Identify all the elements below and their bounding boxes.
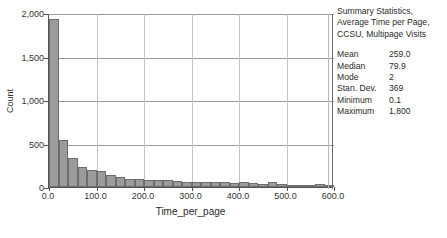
- statistic-value: 259.0: [389, 49, 447, 60]
- histogram-bar: [68, 158, 78, 187]
- histogram-bar: [78, 167, 88, 187]
- y-axis-tick-label: 1,500: [21, 53, 44, 63]
- histogram-bar: [211, 182, 221, 187]
- x-axis-title: Time_per_page: [48, 206, 333, 217]
- summary-statistics-row: Mode2: [337, 72, 447, 83]
- statistic-label: Median: [337, 61, 389, 72]
- histogram-bar: [59, 140, 69, 187]
- histogram-bar: [173, 181, 183, 187]
- x-axis-tick-label: 100.0: [84, 191, 107, 201]
- histogram-bar: [268, 182, 278, 187]
- histogram-bar: [201, 182, 211, 187]
- histogram-bar: [249, 183, 259, 187]
- histogram-bar: [296, 185, 306, 187]
- x-axis-tick-label: 0.0: [42, 191, 55, 201]
- summary-statistics-body: Mean259.0Median79.9Mode2Stan. Dev.369Min…: [337, 49, 447, 117]
- statistic-label: Stan. Dev.: [337, 83, 389, 94]
- histogram-bar: [87, 170, 97, 187]
- histogram-bar: [287, 185, 297, 187]
- summary-statistics-title-line: Average Time per Page,: [337, 17, 447, 28]
- statistic-value: 1,800: [389, 106, 447, 117]
- histogram-bar: [125, 179, 135, 187]
- x-axis-tick-labels: 0.0100.0200.0300.0400.0500.0600.0: [48, 191, 338, 205]
- histogram-bar: [154, 180, 164, 187]
- statistic-label: Mode: [337, 72, 389, 83]
- histogram-bar: [144, 180, 154, 187]
- summary-statistics-row: Stan. Dev.369: [337, 83, 447, 94]
- statistic-value: 0.1: [389, 95, 447, 106]
- statistic-value: 79.9: [389, 61, 447, 72]
- histogram-bar: [220, 182, 230, 187]
- y-axis-tick-label: 500: [29, 140, 44, 150]
- histogram-bar: [239, 182, 249, 187]
- summary-statistics-row: Minimum0.1: [337, 95, 447, 106]
- histogram-bar: [230, 183, 240, 187]
- histogram-bar: [306, 185, 316, 187]
- histogram-bar: [258, 184, 268, 187]
- histogram-bar: [135, 179, 145, 187]
- statistic-label: Minimum: [337, 95, 389, 106]
- summary-statistics-title-line: CCSU, Multipage Visits: [337, 29, 447, 40]
- summary-statistics-title-line: Summary Statistics,: [337, 6, 447, 17]
- x-axis-tick-label: 200.0: [132, 191, 155, 201]
- y-axis-tick-label: 2,000: [21, 9, 44, 19]
- summary-statistics-row: Maximum1,800: [337, 106, 447, 117]
- summary-statistics-row: Mean259.0: [337, 49, 447, 60]
- summary-statistics-row: Median79.9: [337, 61, 447, 72]
- histogram-bar: [49, 19, 59, 187]
- statistic-value: 369: [389, 83, 447, 94]
- statistic-value: 2: [389, 72, 447, 83]
- summary-statistics-table: Mean259.0Median79.9Mode2Stan. Dev.369Min…: [337, 49, 447, 117]
- histogram-bar: [277, 184, 287, 187]
- plot-area: [48, 14, 333, 188]
- statistic-label: Mean: [337, 49, 389, 60]
- statistic-label: Maximum: [337, 106, 389, 117]
- x-axis-tick-label: 400.0: [227, 191, 250, 201]
- plot-right-border: [332, 14, 333, 189]
- summary-statistics-panel: Summary Statistics,Average Time per Page…: [337, 6, 447, 118]
- histogram-bar: [97, 171, 107, 187]
- histogram-bar: [106, 175, 116, 187]
- histogram-bars: [49, 13, 334, 187]
- y-axis-title: Count: [5, 71, 15, 131]
- histogram-bar: [315, 184, 325, 187]
- x-axis-tick-label: 500.0: [274, 191, 297, 201]
- histogram-bar: [192, 182, 202, 187]
- histogram-bar: [116, 177, 126, 187]
- x-axis-tick-label: 300.0: [179, 191, 202, 201]
- x-axis-tick-label: 600.0: [322, 191, 345, 201]
- y-axis-tick-label: 1,000: [21, 96, 44, 106]
- histogram-bar: [163, 180, 173, 187]
- histogram-bar: [182, 182, 192, 187]
- plot-inner-right-border: [328, 14, 329, 189]
- summary-statistics-title: Summary Statistics,Average Time per Page…: [337, 6, 447, 40]
- histogram-figure: 05001,0001,5002,000 Count 0.0100.0200.03…: [0, 0, 447, 238]
